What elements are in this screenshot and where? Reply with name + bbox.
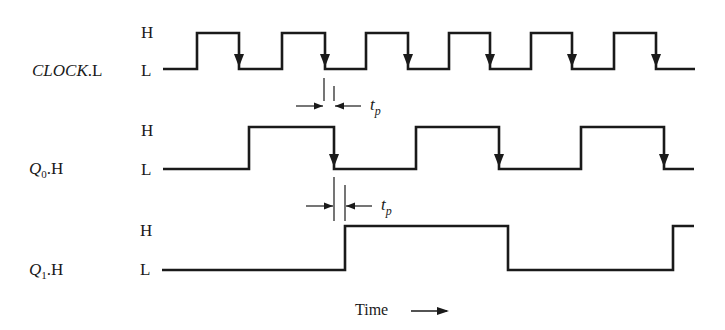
annotation-tp-clock-q0 bbox=[296, 78, 361, 110]
signal-label-q1: Q1.H bbox=[29, 261, 63, 278]
falling-edge-arrow-icon bbox=[403, 54, 413, 67]
annotation-tp-q0-q1 bbox=[306, 177, 372, 221]
falling-edge-arrow-icon bbox=[320, 54, 330, 67]
falling-edge-arrow-icon bbox=[329, 154, 339, 167]
signal-name-main: Q bbox=[29, 159, 41, 178]
signal-label-q0: Q0.H bbox=[29, 160, 63, 177]
signal-name-suffix: .H bbox=[47, 159, 64, 178]
falling-edge-arrow-icon bbox=[485, 54, 495, 67]
signal-name-main: Q bbox=[29, 260, 41, 279]
falling-edge-arrow-icon bbox=[567, 54, 577, 67]
q1-high-label: H bbox=[140, 222, 152, 239]
time-axis-arrow bbox=[411, 307, 449, 315]
clock-low-label: L bbox=[141, 62, 151, 79]
q1-low-label: L bbox=[140, 261, 150, 278]
signal-label-clock: CLOCK.L bbox=[32, 62, 102, 79]
tp-label-1: tp bbox=[370, 96, 381, 113]
falling-edge-arrow-icon bbox=[234, 54, 244, 67]
tp-label-2: tp bbox=[381, 196, 392, 213]
falling-edge-arrow-icon bbox=[651, 54, 661, 67]
signal-name-main: CLOCK bbox=[32, 61, 88, 80]
falling-edge-arrow-icon bbox=[659, 154, 669, 167]
q0-high-label: H bbox=[141, 122, 153, 139]
falling-edge-arrow-icon bbox=[494, 154, 504, 167]
signal-name-sub: 0 bbox=[41, 168, 47, 180]
waveform-q0 bbox=[163, 127, 694, 169]
q0-low-label: L bbox=[141, 161, 151, 178]
clock-high-label: H bbox=[141, 24, 153, 41]
signal-name-sub: 1 bbox=[41, 269, 47, 281]
time-axis-label: Time bbox=[355, 302, 388, 318]
waveforms bbox=[162, 33, 695, 270]
timing-diagram bbox=[0, 0, 725, 330]
signal-name-suffix: .H bbox=[47, 260, 64, 279]
signal-name-suffix: .L bbox=[88, 61, 103, 80]
waveform-clock bbox=[163, 33, 695, 69]
waveform-q1 bbox=[162, 226, 694, 270]
